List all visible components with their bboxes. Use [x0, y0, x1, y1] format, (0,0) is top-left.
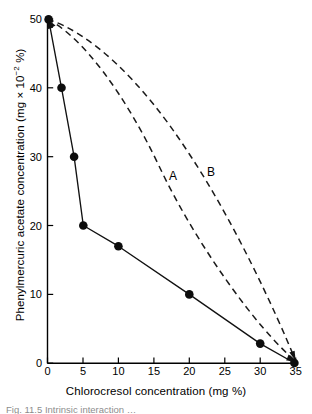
x-tick-label-0: 0: [44, 366, 50, 377]
y-tick-label-50: 50: [20, 14, 42, 25]
curve-label-b: B: [207, 166, 215, 178]
curve-label-a: A: [169, 170, 177, 182]
y-tick-marks: [48, 19, 54, 363]
y-axis-title: Phenylmercuric acetate concentration (mg…: [12, 35, 26, 335]
figure-container: 0 5 10 15 20 25 30 35 0 10 20 30 40 50 A…: [0, 0, 312, 414]
x-tick-label-5: 5: [80, 366, 86, 377]
x-axis-title: Chlorocresol concentration (mg %): [0, 385, 312, 397]
x-tick-label-20: 20: [183, 366, 195, 377]
data-point-marker: [79, 221, 88, 230]
figure-caption: Fig. 11.5 Intrinsic interaction …: [6, 404, 306, 414]
y-axis-title-main: Phenylmercuric acetate concentration (mg…: [14, 75, 26, 321]
x-tick-label-10: 10: [112, 366, 124, 377]
x-tick-marks: [48, 358, 296, 364]
data-point-marker: [256, 339, 265, 348]
y-axis-title-tail: %): [14, 49, 26, 67]
series-a-dashed-curve: [48, 19, 296, 361]
data-point-marker: [57, 84, 66, 93]
x-tick-label-30: 30: [254, 366, 266, 377]
data-point-marker: [114, 242, 123, 251]
data-point-marker: [185, 290, 194, 299]
x-tick-label-15: 15: [148, 366, 160, 377]
data-point-marker: [70, 152, 79, 161]
x-tick-label-25: 25: [219, 366, 231, 377]
x-tick-label-35: 35: [290, 366, 302, 377]
y-axis-title-exponent: −2: [12, 66, 21, 75]
chart-svg: [0, 0, 312, 414]
data-point-marker: [44, 15, 53, 24]
plot-area: [0, 0, 312, 414]
y-tick-label-0: 0: [20, 358, 42, 369]
